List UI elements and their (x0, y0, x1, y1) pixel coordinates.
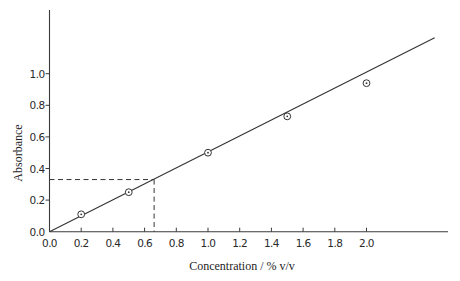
x-tick-label: 0.0 (42, 237, 57, 249)
data-point (363, 80, 370, 87)
y-axis-title: Absorbance (11, 124, 25, 181)
y-tick-label: 0.0 (30, 226, 45, 238)
y-tick-label: 0.6 (30, 131, 46, 143)
x-tick-label: 1.6 (296, 237, 312, 249)
data-point (78, 211, 85, 218)
y-tick-label: 0.8 (30, 99, 45, 111)
y-tick-label: 1.0 (30, 68, 45, 80)
y-ticks: 0.00.20.40.60.81.0 (30, 68, 50, 238)
x-ticks: 0.00.20.40.60.81.01.21.41.61.82.0 (42, 228, 374, 249)
x-tick-label: 0.2 (74, 237, 89, 249)
data-point-center (286, 115, 288, 117)
x-tick-label: 1.4 (264, 237, 280, 249)
data-point (205, 149, 212, 156)
x-tick-label: 1.0 (201, 237, 216, 249)
x-tick-label: 0.6 (137, 237, 153, 249)
axes (50, 10, 449, 232)
y-tick-label: 0.2 (30, 194, 45, 206)
x-tick-label: 1.8 (327, 237, 342, 249)
calibration-fit-line (50, 38, 435, 232)
calibration-chart: 0.00.20.40.60.81.01.21.41.61.82.0 0.00.2… (0, 0, 460, 281)
y-tick-label: 0.4 (30, 163, 46, 175)
data-point (125, 189, 132, 196)
x-tick-label: 2.0 (359, 237, 374, 249)
data-point-center (128, 191, 130, 193)
data-point-center (80, 213, 82, 215)
x-axis-title: Concentration / % v/v (189, 259, 295, 273)
data-point-center (207, 152, 209, 154)
x-tick-label: 0.4 (105, 237, 121, 249)
fit-line-group (50, 38, 435, 232)
x-tick-label: 0.8 (169, 237, 184, 249)
x-tick-label: 1.2 (232, 237, 247, 249)
data-point (284, 113, 291, 120)
data-points (78, 80, 370, 218)
data-point-center (366, 82, 368, 84)
